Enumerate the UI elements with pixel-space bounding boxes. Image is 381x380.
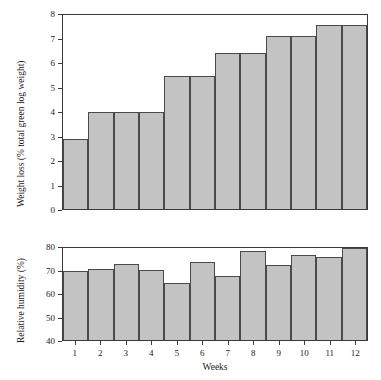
bar-weight-loss-week-10 xyxy=(291,36,316,209)
y-tick-label-relative-humidity-40: 40 xyxy=(46,337,55,346)
y-tick-mark-weight-loss-0 xyxy=(58,210,62,211)
bar-weight-loss-week-9 xyxy=(266,36,291,209)
y-tick-label-weight-loss-6: 6 xyxy=(51,59,56,68)
plot-area-relative-humidity xyxy=(62,247,368,341)
x-tick-label-week-5: 5 xyxy=(175,349,180,358)
bar-relative-humidity-week-7 xyxy=(215,276,240,340)
bar-relative-humidity-week-3 xyxy=(114,264,139,340)
bar-weight-loss-week-5 xyxy=(164,76,189,209)
bar-weight-loss-week-6 xyxy=(190,76,215,209)
x-tick-mark-week-11 xyxy=(330,341,331,345)
x-tick-label-week-11: 11 xyxy=(325,349,334,358)
y-tick-label-relative-humidity-70: 70 xyxy=(46,266,55,275)
x-tick-mark-week-10 xyxy=(304,341,305,345)
y-tick-label-weight-loss-5: 5 xyxy=(51,83,56,92)
x-tick-mark-week-6 xyxy=(202,341,203,345)
y-tick-label-weight-loss-1: 1 xyxy=(51,181,56,190)
chart-relative-humidity: Relative humidity (%) 4050607080 1234567… xyxy=(0,228,381,380)
x-tick-label-week-9: 9 xyxy=(277,349,282,358)
y-tick-label-weight-loss-2: 2 xyxy=(51,157,56,166)
bar-relative-humidity-week-1 xyxy=(63,271,88,340)
y-tick-label-weight-loss-4: 4 xyxy=(51,108,56,117)
chart-weight-loss: Weight loss (% total green log weight) 0… xyxy=(0,0,381,228)
bar-weight-loss-week-7 xyxy=(215,53,240,209)
x-tick-label-week-8: 8 xyxy=(251,349,256,358)
bar-relative-humidity-week-4 xyxy=(139,270,164,340)
bar-weight-loss-week-2 xyxy=(88,112,113,209)
y-tick-label-weight-loss-7: 7 xyxy=(51,34,56,43)
y-tick-mark-relative-humidity-40 xyxy=(58,341,62,342)
x-tick-mark-week-1 xyxy=(75,341,76,345)
bar-relative-humidity-week-9 xyxy=(266,265,291,340)
bar-weight-loss-week-1 xyxy=(63,139,88,209)
y-tick-label-weight-loss-8: 8 xyxy=(51,10,56,19)
x-tick-label-week-10: 10 xyxy=(300,349,309,358)
x-tick-mark-week-3 xyxy=(126,341,127,345)
bar-relative-humidity-week-12 xyxy=(342,248,367,340)
y-axis-label-weight-loss: Weight loss (% total green log weight) xyxy=(16,61,26,207)
x-tick-label-week-2: 2 xyxy=(98,349,103,358)
bar-weight-loss-week-3 xyxy=(114,112,139,209)
x-tick-label-week-1: 1 xyxy=(73,349,78,358)
y-tick-label-weight-loss-0: 0 xyxy=(51,206,56,215)
x-tick-mark-week-9 xyxy=(279,341,280,345)
bar-series-relative-humidity xyxy=(63,248,367,340)
x-tick-mark-week-4 xyxy=(151,341,152,345)
bar-weight-loss-week-8 xyxy=(240,53,265,209)
x-tick-label-week-12: 12 xyxy=(351,349,360,358)
x-tick-mark-week-5 xyxy=(177,341,178,345)
x-tick-label-week-3: 3 xyxy=(124,349,129,358)
y-axis-label-relative-humidity: Relative humidity (%) xyxy=(16,258,26,343)
bar-weight-loss-week-12 xyxy=(342,25,367,209)
figure-canvas: Weight loss (% total green log weight) 0… xyxy=(0,0,381,380)
bar-series-weight-loss xyxy=(63,15,367,209)
bar-relative-humidity-week-5 xyxy=(164,283,189,341)
bar-weight-loss-week-11 xyxy=(316,25,341,209)
x-tick-mark-week-12 xyxy=(355,341,356,345)
plot-area-weight-loss xyxy=(62,14,368,210)
bar-relative-humidity-week-2 xyxy=(88,269,113,340)
bar-relative-humidity-week-6 xyxy=(190,262,215,340)
x-tick-label-week-6: 6 xyxy=(200,349,205,358)
x-axis-label-weeks: Weeks xyxy=(202,362,227,372)
bar-relative-humidity-week-10 xyxy=(291,255,316,340)
x-tick-label-week-4: 4 xyxy=(149,349,154,358)
y-tick-label-relative-humidity-50: 50 xyxy=(46,313,55,322)
x-tick-mark-week-7 xyxy=(228,341,229,345)
y-tick-label-relative-humidity-80: 80 xyxy=(46,243,55,252)
y-tick-label-relative-humidity-60: 60 xyxy=(46,290,55,299)
x-tick-label-week-7: 7 xyxy=(226,349,231,358)
x-tick-mark-week-2 xyxy=(100,341,101,345)
y-tick-label-weight-loss-3: 3 xyxy=(51,132,56,141)
x-tick-mark-week-8 xyxy=(253,341,254,345)
bar-relative-humidity-week-11 xyxy=(316,257,341,340)
bar-relative-humidity-week-8 xyxy=(240,251,265,340)
bar-weight-loss-week-4 xyxy=(139,112,164,209)
